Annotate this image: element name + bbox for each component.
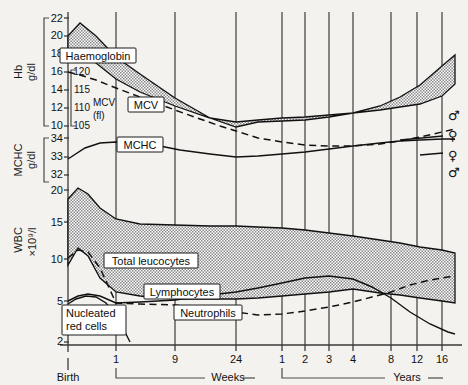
x-label-year-8: 8 bbox=[388, 353, 394, 365]
wbc-tick-15: 15 bbox=[51, 216, 63, 228]
x-label-week-9: 9 bbox=[172, 353, 178, 365]
panel-haemoglobin: 22 20 18 16 14 12 10 Hb g/dl 120 115 110… bbox=[12, 12, 455, 146]
total-leucocytes-band bbox=[68, 188, 455, 303]
neutrophils-label: Neutrophils bbox=[180, 307, 236, 319]
panel-wbc: 20 15 10 5 2 WBC ×10⁹/l Total leucocytes… bbox=[12, 184, 455, 347]
chart-canvas: 1 9 24 1 2 3 4 8 12 16 Birth Weeks Years… bbox=[0, 0, 468, 385]
nucleated-red-cells-label-line2: red cells bbox=[66, 320, 107, 332]
hb-tick-16: 16 bbox=[51, 65, 63, 77]
x-label-year-1: 1 bbox=[279, 353, 285, 365]
mchc-tick-34: 34 bbox=[51, 132, 63, 144]
x-axis: 1 9 24 1 2 3 4 8 12 16 Birth Weeks Years bbox=[57, 345, 462, 383]
gender-symbol-male-1: ♂ bbox=[448, 108, 460, 123]
hb-tick-22: 22 bbox=[51, 12, 63, 24]
wbc-tick-10: 10 bbox=[51, 253, 63, 265]
haemoglobin-label-box: Haemoglobin bbox=[60, 48, 136, 63]
neutrophils-label-box: Neutrophils bbox=[174, 305, 242, 320]
x-label-week-1: 1 bbox=[113, 353, 119, 365]
hb-axis-title: Hb bbox=[12, 65, 24, 79]
gender-symbol-male-2: ♂ bbox=[448, 165, 460, 180]
x-label-year-12: 12 bbox=[411, 353, 423, 365]
gender-symbol-female-2: ♀ bbox=[448, 148, 458, 163]
mcv-tick-105: 105 bbox=[73, 120, 90, 131]
haemoglobin-band bbox=[68, 23, 455, 127]
mchc-label: MCHC bbox=[124, 139, 157, 151]
weeks-bracket-left bbox=[116, 368, 205, 378]
x-label-birth: Birth bbox=[57, 371, 80, 383]
hb-tick-20: 20 bbox=[51, 29, 63, 41]
mchc-tick-32: 32 bbox=[51, 168, 63, 180]
hb-tick-10: 10 bbox=[51, 119, 63, 131]
gender-symbol-female-1: ♀ bbox=[448, 128, 458, 143]
lymphocytes-label-box: Lymphocytes bbox=[144, 284, 220, 299]
x-label-week-24: 24 bbox=[230, 353, 242, 365]
gender-leader-2 bbox=[420, 153, 443, 155]
gender-markers: ♂ ♀ ♀ ♂ bbox=[400, 108, 460, 180]
nucleated-red-cells-label-line1: Nucleated bbox=[66, 307, 116, 319]
x-label-year-2: 2 bbox=[302, 353, 308, 365]
mchc-axis-unit: g/dl bbox=[25, 151, 37, 169]
mchc-axis-bracket bbox=[44, 138, 49, 182]
mchc-axis-title: MCHC bbox=[12, 143, 24, 176]
mcv-tick-115: 115 bbox=[74, 84, 90, 95]
mchc-label-box: MCHC bbox=[117, 137, 163, 152]
mcv-tick-110: 110 bbox=[74, 102, 90, 113]
mcv-label-box: MCV bbox=[128, 97, 164, 112]
nucleated-red-cells-label-box: Nucleated red cells bbox=[62, 305, 126, 335]
wbc-tick-20: 20 bbox=[51, 184, 63, 196]
total-leucocytes-label-box: Total leucocytes bbox=[104, 253, 198, 268]
hb-axis-bracket bbox=[44, 18, 49, 126]
x-group-label-years: Years bbox=[393, 371, 421, 383]
mcv-label: MCV bbox=[134, 99, 159, 111]
wbc-axis-unit: ×10⁹/l bbox=[26, 228, 38, 257]
mcv-axis-bracket bbox=[71, 70, 76, 126]
x-label-year-4: 4 bbox=[350, 353, 356, 365]
mchc-tick-33: 33 bbox=[51, 150, 63, 162]
x-group-label-weeks: Weeks bbox=[211, 371, 245, 383]
mcv-axis-title: MCV bbox=[93, 97, 116, 108]
wbc-axis-title: WBC bbox=[12, 227, 24, 253]
years-bracket-left bbox=[282, 368, 385, 378]
total-leucocytes-label: Total leucocytes bbox=[112, 255, 191, 267]
panel-mchc: 34 33 32 MCHC g/dl MCHC bbox=[12, 132, 455, 182]
hb-tick-14: 14 bbox=[51, 83, 63, 95]
hb-axis-unit: g/dl bbox=[25, 63, 37, 81]
hb-tick-12: 12 bbox=[51, 101, 63, 113]
x-label-year-3: 3 bbox=[326, 353, 332, 365]
wbc-tick-2: 2 bbox=[57, 335, 63, 347]
haemoglobin-label: Haemoglobin bbox=[66, 50, 131, 62]
haematology-chart: 1 9 24 1 2 3 4 8 12 16 Birth Weeks Years… bbox=[0, 0, 468, 385]
mcv-axis-unit: (fl) bbox=[93, 110, 105, 121]
lymphocytes-label: Lymphocytes bbox=[150, 286, 215, 298]
x-label-year-16: 16 bbox=[436, 353, 448, 365]
